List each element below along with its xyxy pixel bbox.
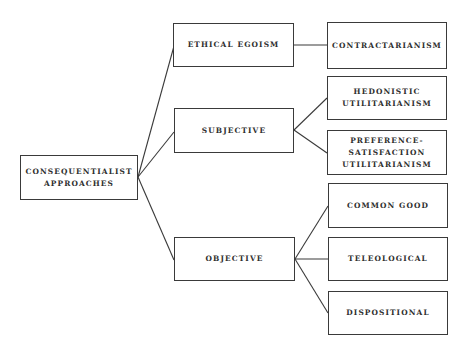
node-label: OBJECTIVE: [206, 253, 264, 265]
diagram-canvas: CONSEQUENTIALIST APPROACHES ETHICAL EGOI…: [0, 0, 469, 353]
edge-objective-dispositional: [295, 259, 328, 313]
node-common-good: COMMON GOOD: [328, 183, 448, 228]
node-contractarianism: CONTRACTARIANISM: [327, 22, 447, 69]
edge-subjective-preference: [294, 130, 327, 153]
node-label: DISPOSITIONAL: [346, 307, 429, 319]
node-label: ETHICAL EGOISM: [188, 39, 280, 51]
node-label: PREFERENCE- SATISFACTION UTILITARIANISM: [342, 135, 431, 171]
node-consequentialist-approaches: CONSEQUENTIALIST APPROACHES: [20, 155, 138, 200]
node-teleological: TELEOLOGICAL: [328, 237, 448, 281]
node-label: SUBJECTIVE: [202, 125, 266, 137]
node-label: CONTRACTARIANISM: [332, 40, 442, 52]
node-label: HEDONISTIC UTILITARIANISM: [342, 86, 431, 110]
node-ethical-egoism: ETHICAL EGOISM: [173, 23, 294, 67]
node-preference-satisfaction-utilitarianism: PREFERENCE- SATISFACTION UTILITARIANISM: [327, 130, 447, 175]
node-label: COMMON GOOD: [347, 200, 429, 212]
node-hedonistic-utilitarianism: HEDONISTIC UTILITARIANISM: [327, 76, 447, 120]
edge-objective-common-good: [295, 206, 328, 259]
edge-subjective-hedonistic: [294, 98, 327, 130]
node-objective: OBJECTIVE: [174, 237, 295, 281]
edge-root-subjective: [138, 132, 174, 177]
edge-root-objective: [138, 177, 174, 260]
edge-root-ethical-egoism: [138, 46, 174, 177]
node-subjective: SUBJECTIVE: [174, 108, 294, 153]
node-label: CONSEQUENTIALIST APPROACHES: [25, 166, 132, 190]
node-dispositional: DISPOSITIONAL: [328, 291, 448, 335]
node-label: TELEOLOGICAL: [348, 253, 428, 265]
